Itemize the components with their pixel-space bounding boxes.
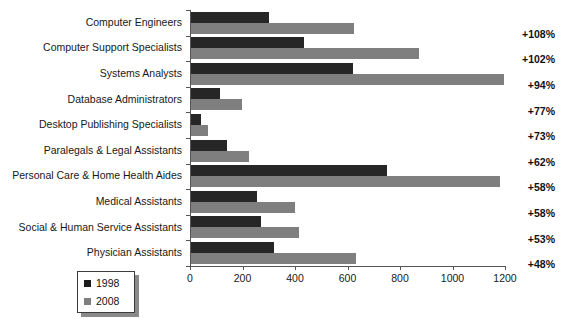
bar-1998 bbox=[191, 191, 257, 202]
category-tick bbox=[186, 36, 190, 37]
growth-label: +58% bbox=[528, 207, 555, 219]
legend-item-2008: 2008 bbox=[84, 296, 119, 307]
category-tick bbox=[186, 10, 190, 11]
value-tick-label: 400 bbox=[286, 272, 304, 284]
bar-1998 bbox=[191, 37, 304, 48]
category-tick bbox=[186, 112, 190, 113]
legend-item-1998: 1998 bbox=[84, 278, 119, 289]
category-tick bbox=[186, 138, 190, 139]
value-tick bbox=[295, 266, 296, 270]
plot-area: 020040060080010001200 bbox=[190, 10, 505, 266]
growth-label: +108% bbox=[522, 28, 555, 40]
category-label: Computer Support Specialists bbox=[43, 41, 182, 53]
value-tick-label: 600 bbox=[339, 272, 357, 284]
category-tick bbox=[186, 164, 190, 165]
value-tick-label: 1000 bbox=[441, 272, 464, 284]
bar-2008 bbox=[191, 125, 208, 136]
growth-label: +62% bbox=[528, 156, 555, 168]
bar-1998 bbox=[191, 12, 269, 23]
growth-label: +53% bbox=[528, 233, 555, 245]
category-tick bbox=[186, 61, 190, 62]
bar-1998 bbox=[191, 165, 387, 176]
legend-label-1998: 1998 bbox=[96, 278, 119, 289]
gray-square-swatch-2008 bbox=[84, 298, 91, 305]
value-tick bbox=[190, 266, 191, 270]
value-tick bbox=[400, 266, 401, 270]
bar-2008 bbox=[191, 23, 354, 34]
bar-2008 bbox=[191, 48, 419, 59]
category-tick bbox=[186, 189, 190, 190]
chart-legend: 1998 2008 bbox=[77, 271, 135, 313]
value-tick-label: 1200 bbox=[493, 272, 516, 284]
bar-1998 bbox=[191, 63, 353, 74]
category-label: Systems Analysts bbox=[100, 67, 182, 79]
growth-label: +77% bbox=[528, 105, 555, 117]
category-label: Medical Assistants bbox=[96, 195, 182, 207]
growth-label: +73% bbox=[528, 130, 555, 142]
bar-2008 bbox=[191, 202, 295, 213]
growth-label: +102% bbox=[522, 53, 555, 65]
bar-2008 bbox=[191, 99, 242, 110]
category-tick bbox=[186, 240, 190, 241]
category-label: Computer Engineers bbox=[86, 16, 182, 28]
category-label: Physician Assistants bbox=[87, 246, 182, 258]
value-tick bbox=[453, 266, 454, 270]
bar-2008 bbox=[191, 151, 249, 162]
growth-label: +48% bbox=[528, 258, 555, 270]
bar-2008 bbox=[191, 253, 356, 264]
gray-square-swatch-1998 bbox=[84, 280, 91, 287]
legend-label-2008: 2008 bbox=[96, 296, 119, 307]
category-label: Desktop Publishing Specialists bbox=[39, 118, 182, 130]
value-tick-label: 200 bbox=[234, 272, 252, 284]
value-tick-label: 0 bbox=[187, 272, 193, 284]
bar-2008 bbox=[191, 176, 500, 187]
bar-1998 bbox=[191, 216, 261, 227]
bar-1998 bbox=[191, 140, 227, 151]
bar-chart: Computer EngineersComputer Support Speci… bbox=[0, 0, 564, 319]
category-label: Social & Human Service Assistants bbox=[19, 221, 182, 233]
category-tick bbox=[186, 87, 190, 88]
category-label: Paralegals & Legal Assistants bbox=[44, 144, 182, 156]
category-tick bbox=[186, 215, 190, 216]
value-tick bbox=[243, 266, 244, 270]
category-label: Personal Care & Home Health Aides bbox=[12, 169, 182, 181]
value-tick bbox=[348, 266, 349, 270]
value-tick-label: 800 bbox=[391, 272, 409, 284]
category-label: Database Administrators bbox=[68, 93, 182, 105]
growth-label: +58% bbox=[528, 181, 555, 193]
bar-1998 bbox=[191, 88, 220, 99]
value-tick bbox=[505, 266, 506, 270]
bar-2008 bbox=[191, 227, 299, 238]
growth-label: +94% bbox=[528, 79, 555, 91]
bar-1998 bbox=[191, 114, 201, 125]
bar-1998 bbox=[191, 242, 274, 253]
bar-2008 bbox=[191, 74, 504, 85]
